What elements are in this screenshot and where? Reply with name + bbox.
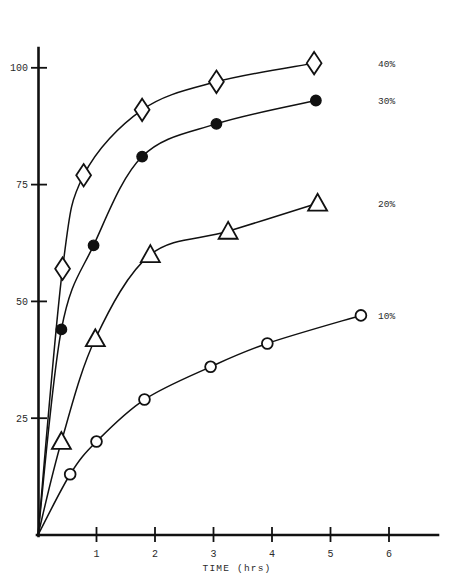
data-point-40pct-1 (55, 257, 70, 279)
data-point-40pct-3 (135, 99, 150, 121)
y-axis-tick-labels: 255075100 (10, 63, 28, 424)
series-line-30pct (38, 101, 316, 536)
x-tick-label: 6 (386, 549, 392, 560)
data-point-10pct-4 (205, 361, 216, 372)
data-point-10pct-1 (65, 469, 76, 480)
data-point-30pct-4 (211, 119, 221, 129)
data-point-10pct-3 (139, 394, 150, 405)
series-label-40pct: 40% (378, 59, 395, 70)
data-point-20pct-4 (219, 222, 238, 239)
data-point-20pct-1 (52, 432, 71, 449)
y-tick-label: 75 (16, 180, 28, 191)
x-tick-label: 4 (269, 549, 275, 560)
data-point-40pct-4 (209, 71, 224, 93)
series-line-40pct (38, 63, 314, 535)
data-point-10pct-6 (356, 310, 367, 321)
x-tick-label: 3 (210, 549, 216, 560)
data-point-40pct-5 (307, 52, 322, 74)
series-curves (38, 63, 361, 535)
series-label-30pct: 30% (378, 96, 395, 107)
series-label-10pct: 10% (378, 311, 395, 322)
series-line-20pct (38, 203, 318, 535)
data-point-40pct-2 (76, 164, 91, 186)
data-point-20pct-5 (308, 194, 327, 211)
series-label-20pct: 20% (378, 199, 395, 210)
data-point-30pct-3 (137, 151, 147, 161)
data-point-30pct-1 (56, 324, 66, 334)
data-point-20pct-3 (141, 245, 160, 262)
data-point-10pct-5 (262, 338, 273, 349)
x-tick-label: 5 (327, 549, 333, 560)
series-line-10pct (38, 315, 361, 535)
chart-container: 255075100 123456 40%30%20%10% TIME (hrs) (0, 0, 455, 588)
series-markers (52, 52, 366, 480)
axis-lines (37, 48, 438, 536)
x-axis-title: TIME (hrs) (202, 563, 271, 574)
y-tick-label: 25 (16, 414, 28, 425)
y-tick-label: 100 (10, 63, 28, 74)
x-axis-tick-labels: 123456 (93, 549, 392, 560)
data-point-10pct-2 (91, 436, 102, 447)
kinetics-line-chart: 255075100 123456 40%30%20%10% TIME (hrs) (0, 0, 455, 588)
data-point-20pct-2 (86, 329, 105, 346)
series-labels: 40%30%20%10% (378, 59, 395, 322)
x-tick-label: 1 (93, 549, 99, 560)
data-point-30pct-5 (311, 95, 321, 105)
y-tick-label: 50 (16, 297, 28, 308)
data-point-30pct-2 (88, 240, 98, 250)
x-tick-label: 2 (152, 549, 158, 560)
